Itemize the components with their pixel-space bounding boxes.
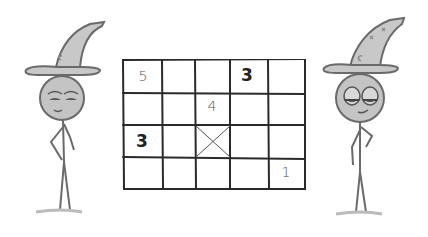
cell-r0-c0: 5 xyxy=(136,69,150,83)
scene: 5 3 4 3 1 xyxy=(0,0,428,237)
wizard-hat-icon xyxy=(26,22,105,75)
right-wizard xyxy=(318,12,428,222)
wizard-body xyxy=(336,122,382,214)
cell-r2-c0: 3 xyxy=(134,133,150,150)
wizard-face xyxy=(40,76,84,120)
cell-r1-c2: 4 xyxy=(205,99,219,113)
grid-puzzle: 5 3 4 3 1 xyxy=(122,59,306,190)
cell-r3-c4: 1 xyxy=(279,165,293,179)
wizard-hat-icon xyxy=(324,18,405,73)
crossed-cell-icon xyxy=(196,126,230,157)
wizard-body xyxy=(36,120,82,212)
left-wizard xyxy=(18,12,118,222)
cell-r0-c3: 3 xyxy=(239,67,255,84)
wizard-face xyxy=(336,74,384,122)
